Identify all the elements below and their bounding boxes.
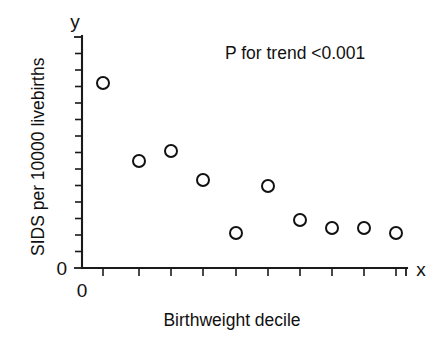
data-point [133, 155, 145, 167]
plot-canvas: y x 0 0 P for trend <0.001 SIDS per 1000… [0, 0, 433, 349]
x-axis-letter: x [416, 259, 426, 280]
y-origin-label: 0 [56, 258, 67, 279]
data-point [358, 222, 370, 234]
data-point [390, 227, 402, 239]
x-axis-title: Birthweight decile [163, 310, 300, 330]
y-axis-title: SIDS per 10000 livebirths [28, 57, 48, 256]
p-value-annotation: P for trend <0.001 [225, 43, 365, 63]
data-point [197, 174, 209, 186]
data-point [262, 180, 274, 192]
y-axis-letter: y [70, 11, 80, 32]
x-axis-ticks [103, 268, 396, 276]
data-point [97, 77, 109, 89]
data-point [165, 145, 177, 157]
data-point [230, 227, 242, 239]
data-point [294, 214, 306, 226]
data-markers [97, 77, 402, 239]
x-origin-label: 0 [77, 280, 88, 301]
scatter-plot-figure: y x 0 0 P for trend <0.001 SIDS per 1000… [0, 0, 433, 349]
data-point [326, 222, 338, 234]
